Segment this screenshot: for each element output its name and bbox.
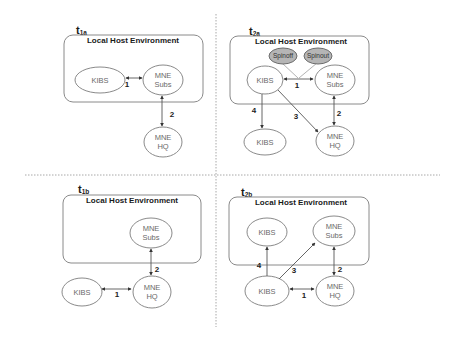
edge-label-1: 1 (115, 290, 120, 299)
edge-label-1: 1 (125, 80, 130, 89)
edge-label-2: 2 (337, 109, 342, 118)
edge-label-4: 4 (257, 261, 262, 270)
node-kibs: KIBS (245, 276, 289, 306)
edge-3 (278, 90, 318, 132)
panel-label-t1b: t1b (78, 183, 89, 195)
panel-t1b: t1b Local Host Environment MNE Subs KIBS… (62, 183, 201, 308)
edge-label-1: 1 (295, 81, 300, 90)
edge-3 (279, 243, 315, 279)
svg-text:Spinout: Spinout (307, 52, 329, 60)
svg-text:MNE: MNE (326, 222, 343, 231)
node-spinoff: Spinoff (269, 48, 297, 64)
node-mne-hq: MNE HQ (144, 127, 182, 157)
svg-text:MNE: MNE (144, 283, 161, 292)
node-mne-hq: MNE HQ (133, 276, 171, 308)
node-mne-subs: MNE Subs (143, 65, 183, 95)
env-title: Local Host Environment (86, 196, 178, 205)
env-title: Local Host Environment (87, 36, 179, 45)
edge-label-3: 3 (292, 266, 297, 275)
node-kibs: KIBS (75, 67, 125, 93)
svg-text:HQ: HQ (157, 142, 168, 151)
svg-text:KIBS: KIBS (258, 228, 275, 237)
svg-text:KIBS: KIBS (73, 288, 90, 297)
svg-text:MNE: MNE (155, 133, 172, 142)
edge-label-4: 4 (252, 106, 257, 115)
panel-t1a: t1a Local Host Environment KIBS MNE Subs… (64, 24, 203, 157)
env-title: Local Host Environment (255, 37, 347, 46)
node-kibs-external: KIBS (244, 129, 286, 155)
node-spinout: Spinout (304, 48, 332, 64)
svg-text:HQ: HQ (329, 291, 340, 300)
edge-label-2: 2 (170, 110, 175, 119)
env-title: Local Host Environment (255, 198, 347, 207)
node-mne-subs: MNE Subs (130, 218, 172, 248)
svg-text:MNE: MNE (155, 71, 172, 80)
svg-text:HQ: HQ (146, 292, 157, 301)
edge-label-2: 2 (338, 265, 343, 274)
node-kibs: KIBS (62, 278, 102, 306)
diagram-canvas: t1a Local Host Environment KIBS MNE Subs… (0, 0, 458, 343)
svg-text:Subs: Subs (325, 231, 342, 240)
panel-label-t2a: t2a (249, 25, 260, 37)
panel-label-t1a: t1a (76, 24, 87, 36)
node-mne-subs: MNE Subs (313, 216, 355, 246)
svg-text:KIBS: KIBS (91, 76, 108, 85)
svg-text:HQ: HQ (329, 141, 340, 150)
edge-label-2: 2 (155, 265, 160, 274)
spinout-link (299, 63, 317, 78)
panel-t2b: t2b Local Host Environment KIBS MNE Subs… (229, 186, 369, 306)
svg-text:MNE: MNE (143, 224, 160, 233)
node-kibs: KIBS (247, 66, 283, 94)
svg-text:Subs: Subs (326, 80, 343, 89)
node-mne-subs: MNE Subs (315, 65, 355, 95)
panel-t2a: t2a Local Host Environment Spinoff Spino… (230, 25, 369, 156)
node-mne-hq: MNE HQ (316, 276, 354, 306)
svg-text:Subs: Subs (154, 80, 171, 89)
edge-label-1: 1 (302, 291, 307, 300)
svg-text:MNE: MNE (327, 71, 344, 80)
svg-text:Subs: Subs (142, 233, 159, 242)
svg-text:MNE: MNE (327, 282, 344, 291)
svg-text:Spinoff: Spinoff (273, 52, 293, 60)
spinoff-link (282, 63, 298, 78)
panel-label-t2b: t2b (241, 186, 252, 198)
svg-text:KIBS: KIBS (256, 76, 273, 85)
local-host-environment-box (64, 35, 203, 102)
edge-label-3: 3 (294, 112, 299, 121)
svg-text:MNE: MNE (327, 132, 344, 141)
svg-text:KIBS: KIBS (258, 287, 275, 296)
node-mne-hq: MNE HQ (316, 126, 354, 156)
svg-text:KIBS: KIBS (256, 138, 273, 147)
node-kibs-local: KIBS (247, 218, 287, 246)
